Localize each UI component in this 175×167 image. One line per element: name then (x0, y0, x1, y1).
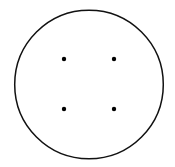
figure-svg (0, 0, 175, 167)
figure-canvas (0, 0, 175, 167)
point-top-right (112, 57, 116, 61)
point-bottom-right (112, 107, 116, 111)
point-top-left (62, 57, 66, 61)
point-bottom-left (62, 107, 66, 111)
figure-background (0, 0, 175, 167)
